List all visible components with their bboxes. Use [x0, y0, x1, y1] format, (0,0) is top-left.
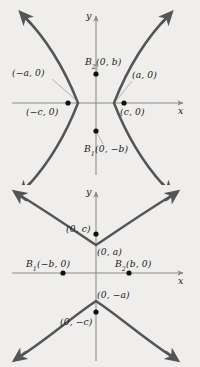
label-focus-left: (−c, 0) [26, 107, 58, 116]
label-covertex-right: B2(b, 0) [115, 259, 151, 268]
label-covertex-left-coords: (−b, 0) [37, 258, 70, 269]
label-covertex-right-name: B [115, 258, 122, 269]
point-covertex-bottom [93, 128, 98, 133]
label-covertex-bottom-sub: 1 [91, 150, 95, 158]
label-x-axis: x [178, 106, 184, 116]
upper-branch-left-arrowhead [15, 192, 26, 200]
label-y-axis: y [86, 187, 92, 197]
label-focus-bottom: (0, −c) [60, 317, 92, 326]
label-covertex-top-name: B [85, 56, 92, 67]
hyperbola-transverse-vertical-panel: (0, c) (0, a) (0, −a) (0, −c) B1(−b, 0) … [0, 185, 200, 367]
label-covertex-left: B1(−b, 0) [26, 259, 70, 268]
point-covertex-right [126, 270, 131, 275]
axes-vertical-panel [12, 192, 183, 361]
label-covertex-bottom-name: B [84, 143, 91, 154]
label-vertex-top: (0, a) [97, 247, 122, 256]
left-branch-upper-arrowhead [21, 13, 30, 23]
right-branch-upper-arrowhead [162, 13, 171, 23]
label-covertex-top-coords: (0, b) [96, 56, 121, 67]
lower-branch-left-arrowhead [15, 352, 26, 360]
label-covertex-top: B2(0, b) [85, 57, 121, 66]
label-covertex-right-coords: (b, 0) [126, 258, 151, 269]
hyperbola-transverse-horizontal-panel: (−a, 0) (−c, 0) (a, 0) (c, 0) B2(0, b) B… [0, 0, 200, 185]
label-focus-top: (0, c) [66, 224, 91, 233]
label-covertex-left-name: B [26, 258, 33, 269]
label-vertex-left: (−a, 0) [12, 68, 45, 77]
upper-branch-right-arrowhead [166, 192, 177, 200]
hyperbola-right-branch [114, 14, 170, 185]
label-covertex-right-sub: 2 [122, 265, 126, 273]
label-covertex-bottom: B1(0, −b) [84, 144, 128, 153]
point-focus-top [93, 231, 98, 236]
label-vertex-right: (a, 0) [132, 70, 157, 79]
point-focus-bottom [93, 309, 98, 314]
hyperbola-figure: (−a, 0) (−c, 0) (a, 0) (c, 0) B2(0, b) B… [0, 0, 200, 367]
label-covertex-left-sub: 1 [33, 265, 37, 273]
hyperbola-left-branch [22, 14, 78, 185]
label-covertex-bottom-coords: (0, −b) [95, 143, 128, 154]
label-vertex-bottom: (0, −a) [97, 290, 130, 299]
label-x-axis: x [178, 276, 184, 286]
point-focus-right [121, 100, 126, 105]
label-focus-right: (c, 0) [120, 107, 145, 116]
label-covertex-top-sub: 2 [92, 63, 96, 71]
lower-branch-right-arrowhead [166, 352, 177, 360]
point-focus-left [65, 100, 70, 105]
point-covertex-left [60, 270, 65, 275]
point-covertex-top [93, 71, 98, 76]
label-y-axis: y [86, 11, 92, 21]
